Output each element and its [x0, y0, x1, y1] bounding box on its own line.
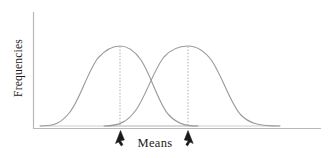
- distribution-curve-1: [40, 46, 198, 126]
- chart-figure: Frequencies Means: [0, 0, 336, 158]
- y-axis-label: Frequencies: [12, 18, 24, 118]
- plot-canvas: [0, 0, 336, 158]
- distribution-curve-2: [104, 46, 280, 126]
- x-axis-label: Means: [122, 136, 188, 151]
